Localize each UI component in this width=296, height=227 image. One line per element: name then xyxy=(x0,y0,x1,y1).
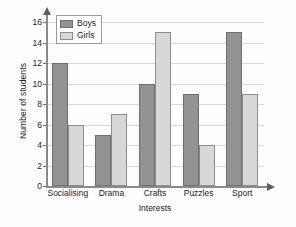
y-axis-tick-label: 12 xyxy=(26,59,42,68)
y-axis-tick-label: 16 xyxy=(26,18,42,27)
bar-crafts-girls xyxy=(155,32,171,186)
bar-group xyxy=(133,22,177,186)
y-axis-tick-label: 2 xyxy=(26,161,42,170)
bar-drama-girls xyxy=(111,114,127,186)
y-axis-tick-label: 6 xyxy=(26,120,42,129)
y-axis-tick-label: 10 xyxy=(26,79,42,88)
legend-item-girls: Girls xyxy=(60,30,96,41)
bar-socialising-boys xyxy=(52,63,68,186)
bar-puzzles-boys xyxy=(183,94,199,186)
y-axis-tick-label: 0 xyxy=(26,182,42,191)
y-axis-line xyxy=(46,14,48,186)
x-axis-tick-label: Socialising xyxy=(47,188,88,198)
bar-puzzles-girls xyxy=(199,145,215,186)
bar-socialising-girls xyxy=(68,125,84,187)
y-axis-tick-label: 8 xyxy=(26,100,42,109)
legend-label: Boys xyxy=(77,19,96,28)
legend-swatch-girls-icon xyxy=(60,32,73,40)
legend-label: Girls xyxy=(77,31,94,40)
bar-group xyxy=(177,22,221,186)
bar-chart: Number of students 0246810121416 Sociali… xyxy=(0,0,296,227)
chart-legend: BoysGirls xyxy=(56,15,102,44)
y-axis-tick-label: 14 xyxy=(26,38,42,47)
bar-drama-boys xyxy=(95,135,111,186)
plot-area xyxy=(46,22,264,186)
y-axis-tick-label: 4 xyxy=(26,141,42,150)
bar-group xyxy=(220,22,264,186)
x-axis-tick-label: Drama xyxy=(99,188,125,198)
bar-sport-girls xyxy=(242,94,258,186)
x-axis-tick-label: Sport xyxy=(232,188,252,198)
bar-group xyxy=(46,22,90,186)
y-axis-arrow-icon xyxy=(43,7,51,15)
legend-swatch-boys-icon xyxy=(60,20,73,28)
x-axis-tick-label: Puzzles xyxy=(184,188,214,198)
y-axis-tick-labels: 0246810121416 xyxy=(24,22,42,186)
bar-group xyxy=(90,22,134,186)
bar-sport-boys xyxy=(226,32,242,186)
x-axis-arrow-icon xyxy=(267,183,275,191)
x-axis-tick-labels: SocialisingDramaCraftsPuzzlesSport xyxy=(46,188,264,202)
bar-crafts-boys xyxy=(139,84,155,187)
x-axis-title: Interests xyxy=(46,203,264,213)
x-axis-tick-label: Crafts xyxy=(144,188,167,198)
legend-item-boys: Boys xyxy=(60,18,96,29)
